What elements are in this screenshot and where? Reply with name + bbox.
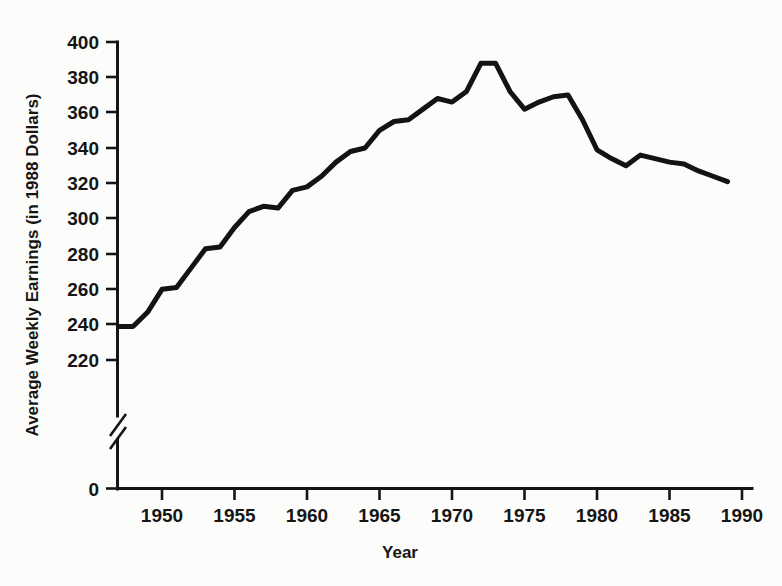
x-axis-title: Year [382, 543, 418, 562]
y-axis-title: Average Weekly Earnings (in 1988 Dollars… [23, 94, 42, 437]
y-tick-label-280: 280 [67, 244, 99, 265]
chart-figure: 400 380 360 340 320 300 280 260 240 220 … [0, 0, 782, 586]
y-tick-label-380: 380 [67, 67, 99, 88]
y-tick-label-320: 320 [67, 173, 99, 194]
y-tick-label-340: 340 [67, 138, 99, 159]
x-tick-label-1975: 1975 [503, 505, 546, 526]
x-tick-label-1980: 1980 [576, 505, 618, 526]
y-tick-label-400: 400 [67, 32, 99, 53]
y-tick-label-240: 240 [67, 314, 99, 335]
x-tick-label-1960: 1960 [286, 505, 328, 526]
y-tick-label-360: 360 [67, 102, 99, 123]
x-tick-label-1965: 1965 [358, 505, 401, 526]
x-tick-label-1955: 1955 [213, 505, 256, 526]
x-tick-label-1990: 1990 [721, 505, 763, 526]
x-tick-label-1950: 1950 [141, 505, 183, 526]
x-tick-label-1970: 1970 [431, 505, 473, 526]
y-tick-label-0: 0 [88, 479, 99, 500]
y-tick-label-220: 220 [67, 350, 99, 371]
x-tick-label-1985: 1985 [648, 505, 691, 526]
line-chart: 400 380 360 340 320 300 280 260 240 220 … [0, 0, 782, 586]
y-tick-label-300: 300 [67, 208, 99, 229]
y-tick-label-260: 260 [67, 279, 99, 300]
